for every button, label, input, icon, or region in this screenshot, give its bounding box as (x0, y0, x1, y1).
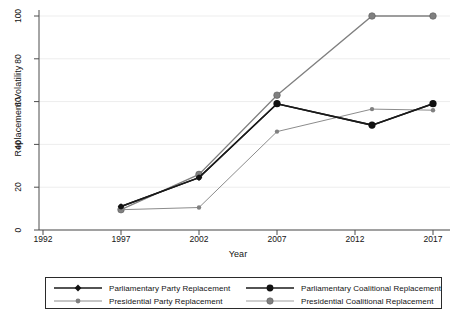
x-axis-title: Year (178, 249, 298, 259)
chart-canvas (0, 0, 457, 318)
xtick-label-1992: 1992 (23, 234, 63, 244)
legend-item-presidential-party[interactable]: Presidential Party Replacement (52, 294, 223, 308)
legend-label-parliamentary-party: Parliamentary Party Replacement (109, 284, 230, 293)
chart-legend: Parliamentary Party Replacement Presiden… (45, 277, 442, 309)
chart-figure: 100 80 60 40 20 0 1992 1997 2002 2007 20… (0, 0, 457, 318)
legend-marker-circle-large-gray (244, 295, 296, 307)
series-presidential-coalitional (118, 13, 437, 213)
y-axis-title: Replacement Volatility (13, 46, 23, 176)
xtick-label-2002: 2002 (179, 234, 219, 244)
legend-label-parliamentary-coalitional: Parliamentary Coalitional Replacement (301, 284, 441, 293)
legend-marker-circle-large-black (244, 282, 296, 294)
legend-label-presidential-party: Presidential Party Replacement (109, 297, 223, 306)
legend-item-parliamentary-party[interactable]: Parliamentary Party Replacement (52, 281, 230, 295)
xtick-label-2017: 2017 (413, 234, 453, 244)
ytick-label-100: 100 (13, 3, 23, 29)
legend-item-presidential-coalitional[interactable]: Presidential Coalitional Replacement (244, 294, 434, 308)
series-presidential-party (119, 107, 435, 212)
legend-marker-circle-small-gray (52, 295, 104, 307)
legend-item-parliamentary-coalitional[interactable]: Parliamentary Coalitional Replacement (244, 281, 441, 295)
xtick-label-1997: 1997 (101, 234, 141, 244)
xtick-label-2012: 2012 (335, 234, 375, 244)
legend-label-presidential-coalitional: Presidential Coalitional Replacement (301, 297, 434, 306)
legend-marker-diamond-small-black (52, 282, 104, 294)
series-parliamentary-coalitional (118, 100, 436, 209)
gridlines (39, 16, 450, 230)
y-axis-ticks (34, 16, 39, 230)
ytick-label-20: 20 (13, 174, 23, 200)
series-parliamentary-party (118, 100, 437, 209)
xtick-label-2007: 2007 (257, 234, 297, 244)
ytick-label-0: 0 (13, 217, 23, 243)
